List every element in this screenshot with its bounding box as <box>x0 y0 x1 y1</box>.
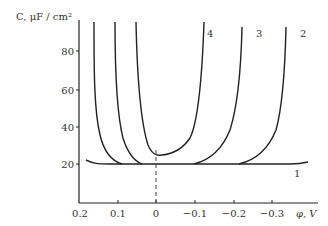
y-ticks: 20 40 60 80 <box>61 46 79 170</box>
curve-2 <box>239 27 286 164</box>
curve-left-inner <box>115 22 142 164</box>
curve-label-2: 2 <box>300 28 306 39</box>
x-tick-minus-0.1: −0.1 <box>183 208 207 219</box>
x-tick-minus-0.2: −0.2 <box>222 208 246 219</box>
y-tick-20: 20 <box>61 159 74 170</box>
x-tick-minus-0.3: −0.3 <box>260 208 284 219</box>
y-tick-80: 80 <box>61 46 74 57</box>
curve-label-4: 4 <box>207 28 213 39</box>
curve-4 <box>136 22 204 155</box>
x-tick-0.1: 0.1 <box>110 208 126 219</box>
chart: 20 40 60 80 0.2 0.1 0 −0.1 −0.2 −0.3 C, … <box>0 0 328 226</box>
x-tick-0: 0 <box>153 208 159 219</box>
y-tick-40: 40 <box>61 122 74 133</box>
x-tick-0.2: 0.2 <box>72 208 88 219</box>
curve-label-1: 1 <box>294 168 300 179</box>
curve-label-3: 3 <box>256 28 262 39</box>
y-axis-label: C, μF / cm² <box>16 11 72 22</box>
x-axis-label: φ, V <box>296 208 318 219</box>
curve-3 <box>194 27 242 164</box>
curve-left-outer <box>94 22 122 164</box>
y-tick-60: 60 <box>61 85 74 96</box>
